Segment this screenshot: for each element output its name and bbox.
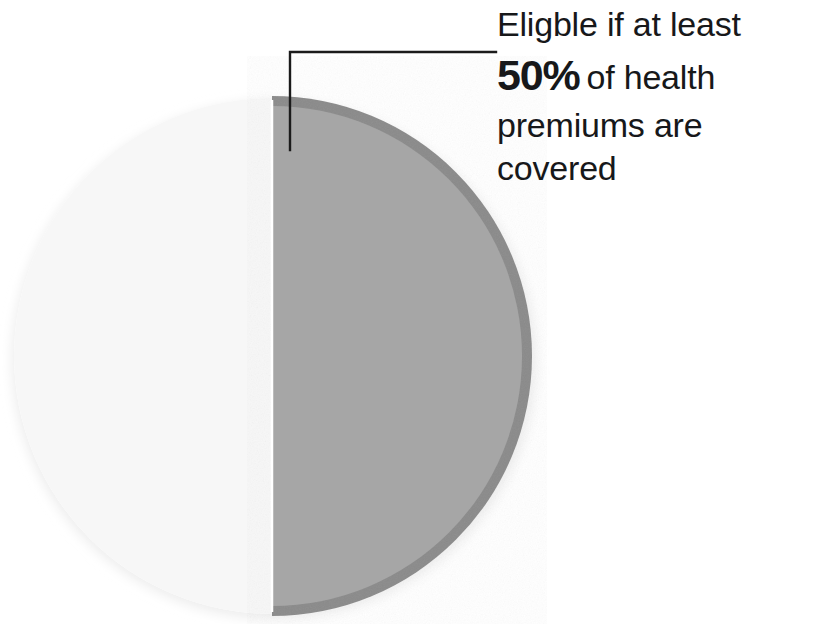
callout-line-2-rest: of health <box>586 58 715 96</box>
callout-line-3: premiums are <box>497 104 819 147</box>
percent-value: 50% <box>497 51 579 99</box>
callout-line-2: 50%of health <box>497 49 819 104</box>
eligibility-callout-text: Eligble if at least 50%of health premium… <box>497 2 819 190</box>
callout-line-1: Eligble if at least <box>497 2 819 47</box>
pie-chart <box>8 92 538 624</box>
slide-canvas: Eligble if at least 50%of health premium… <box>0 0 819 624</box>
pie-slice-covered[interactable] <box>272 106 522 606</box>
pie-slice-uncovered[interactable] <box>14 98 272 614</box>
callout-line-4: covered <box>497 147 819 190</box>
pie-chart-svg <box>8 92 538 624</box>
